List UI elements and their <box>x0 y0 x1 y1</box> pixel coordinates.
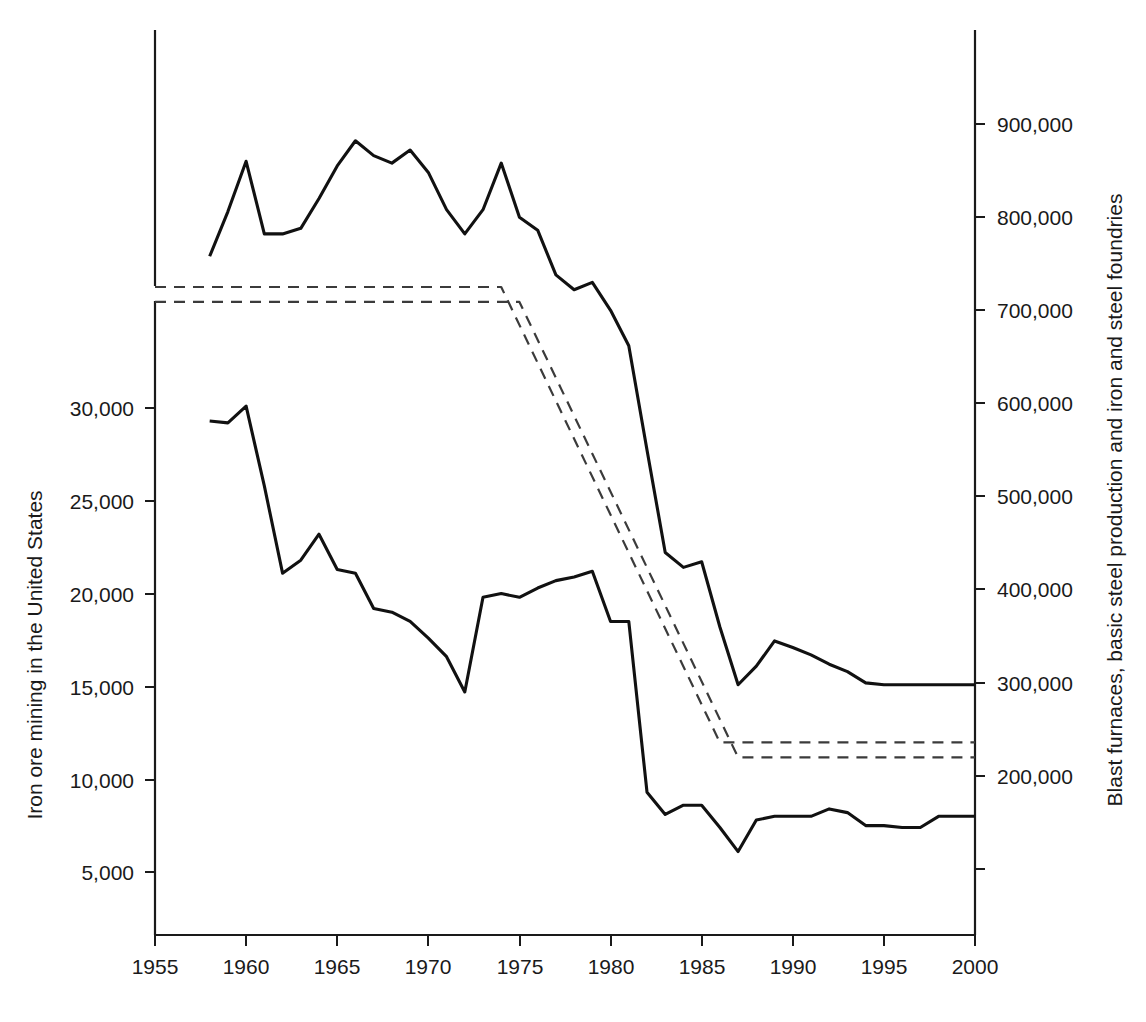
y-axis-left-title: Iron ore mining in the United States <box>23 490 46 819</box>
x-axis-ticks <box>155 935 975 946</box>
chart-figure: 1955 1960 1965 1970 1975 1980 1985 1990 … <box>0 0 1146 1022</box>
y-axis-left: 30,000 25,000 20,000 15,000 10,000 5,000… <box>23 30 155 935</box>
x-tick-label-1955: 1955 <box>132 955 179 978</box>
x-tick-label-1970: 1970 <box>405 955 452 978</box>
series-line-1 <box>210 406 975 851</box>
y-right-tick-label-900000: 900,000 <box>997 113 1073 136</box>
series-layer <box>155 141 975 852</box>
chart-canvas: 1955 1960 1965 1970 1975 1980 1985 1990 … <box>0 0 1146 1022</box>
y-axis-left-ticks <box>145 408 155 872</box>
x-axis-tick-labels: 1955 1960 1965 1970 1975 1980 1985 1990 … <box>132 955 999 978</box>
y-left-tick-label-5000: 5,000 <box>81 861 134 884</box>
y-axis-right-ticks <box>975 124 985 869</box>
y-left-tick-label-20000: 20,000 <box>70 583 134 606</box>
series-line-3 <box>155 302 975 757</box>
y-right-tick-label-500000: 500,000 <box>997 485 1073 508</box>
y-left-tick-label-25000: 25,000 <box>70 490 134 513</box>
x-tick-label-1975: 1975 <box>497 955 544 978</box>
x-tick-label-1960: 1960 <box>223 955 270 978</box>
y-axis-right: 900,000 800,000 700,000 600,000 500,000 … <box>975 30 1126 935</box>
y-axis-left-tick-labels: 30,000 25,000 20,000 15,000 10,000 5,000 <box>70 397 134 884</box>
y-right-tick-label-400000: 400,000 <box>997 578 1073 601</box>
y-right-tick-label-200000: 200,000 <box>997 765 1073 788</box>
series-line-0 <box>210 141 975 685</box>
y-right-tick-label-700000: 700,000 <box>997 299 1073 322</box>
x-tick-label-1965: 1965 <box>314 955 361 978</box>
x-tick-label-1980: 1980 <box>588 955 635 978</box>
x-axis: 1955 1960 1965 1970 1975 1980 1985 1990 … <box>132 935 999 978</box>
x-tick-label-2000: 2000 <box>952 955 999 978</box>
x-tick-label-1995: 1995 <box>861 955 908 978</box>
x-tick-label-1985: 1985 <box>679 955 726 978</box>
y-left-tick-label-10000: 10,000 <box>70 769 134 792</box>
y-right-tick-label-600000: 600,000 <box>997 392 1073 415</box>
y-axis-right-tick-labels: 900,000 800,000 700,000 600,000 500,000 … <box>997 113 1073 788</box>
y-right-tick-label-300000: 300,000 <box>997 672 1073 695</box>
x-tick-label-1990: 1990 <box>770 955 817 978</box>
y-axis-right-title: Blast furnaces, basic steel production a… <box>1103 194 1126 807</box>
y-left-tick-label-15000: 15,000 <box>70 676 134 699</box>
y-right-tick-label-800000: 800,000 <box>997 206 1073 229</box>
y-left-tick-label-30000: 30,000 <box>70 397 134 420</box>
